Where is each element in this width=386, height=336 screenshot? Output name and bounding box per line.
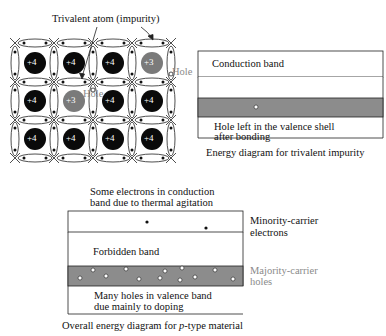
thermal-note-2: band due to thermal agitation (90, 197, 213, 208)
atom-charge: +4 (105, 95, 115, 105)
atom-charge: +4 (27, 95, 37, 105)
atom-charge: +4 (27, 133, 37, 143)
atom-charge: +4 (144, 95, 154, 105)
forbidden-band-label: Forbidden band (93, 246, 159, 257)
atom-charge: +4 (66, 57, 76, 67)
caption-suffix: -type material (184, 320, 243, 331)
atom-charge: +4 (27, 57, 37, 67)
atom-charges: +4 +4 +4 +3 +4 +3 +4 +4 +4 +4 +4 +4 (0, 0, 190, 170)
trivalent-diagram-caption: Energy diagram for trivalent impurity (206, 147, 364, 158)
atom-charge: +4 (105, 57, 115, 67)
thermal-note-1: Some electrons in conduction (90, 186, 215, 197)
atom-charge: +3 (66, 95, 76, 105)
atom-charge: +4 (66, 133, 76, 143)
atom-charge: +4 (105, 133, 115, 143)
caption-prefix: Overall energy diagram for (62, 320, 179, 331)
atom-charge: +4 (144, 133, 154, 143)
atom-charge: +3 (144, 57, 154, 67)
majority-carrier-label-2: holes (250, 276, 272, 287)
hole-valence-label-2: after bonding (214, 131, 270, 142)
ptype-diagram-caption: Overall energy diagram for p-type materi… (62, 320, 243, 331)
valence-note-1: Many holes in valence band (94, 290, 212, 301)
majority-carrier-label-1: Majority-carrier (250, 265, 318, 276)
hole-marker (254, 105, 258, 109)
minority-carrier-label-2: electrons (250, 227, 288, 238)
conduction-band-label: Conduction band (212, 58, 284, 69)
valence-note-2: due mainly to doping (94, 301, 184, 312)
minority-carrier-label-1: Minority-carrier (250, 215, 318, 226)
